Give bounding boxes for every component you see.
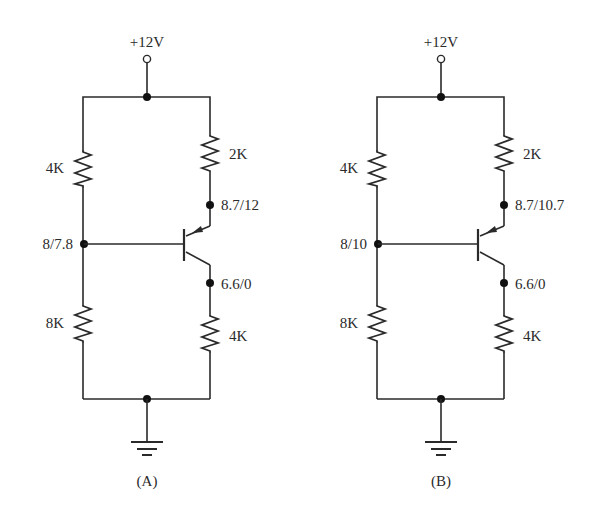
resistor-label-top-left: 4K xyxy=(340,160,359,176)
resistor-label-bottom-right: 4K xyxy=(523,328,542,344)
resistor-label-top-right: 2K xyxy=(523,146,542,162)
collector-node-label: 6.6/0 xyxy=(515,276,545,292)
resistor-label-bottom-left: 8K xyxy=(340,315,359,331)
supply-label: +12V xyxy=(130,34,164,50)
circuit-a: +12V 4K 2K 8.7/12 8/7.8 6.6/0 8K 4K (A) xyxy=(43,34,259,490)
resistor-label-bottom-right: 4K xyxy=(229,328,248,344)
base-node-label: 8/7.8 xyxy=(43,236,73,252)
supply-label: +12V xyxy=(424,34,458,50)
circuit-a-schematic xyxy=(75,55,218,455)
resistor-label-top-right: 2K xyxy=(229,146,248,162)
schematic-canvas: +12V 4K 2K 8.7/12 8/7.8 6.6/0 8K 4K (A) … xyxy=(0,0,614,522)
circuit-caption: (B) xyxy=(431,473,451,490)
collector-node-label: 6.6/0 xyxy=(221,276,251,292)
circuit-b-schematic xyxy=(369,55,512,455)
resistor-label-top-left: 4K xyxy=(46,160,65,176)
circuit-caption: (A) xyxy=(137,473,158,490)
emitter-node-label: 8.7/10.7 xyxy=(515,197,565,213)
base-node-label: 8/10 xyxy=(340,236,367,252)
resistor-label-bottom-left: 8K xyxy=(46,315,65,331)
circuit-b: +12V 4K 2K 8.7/10.7 8/10 6.6/0 8K 4K (B) xyxy=(340,34,565,490)
emitter-node-label: 8.7/12 xyxy=(221,197,259,213)
